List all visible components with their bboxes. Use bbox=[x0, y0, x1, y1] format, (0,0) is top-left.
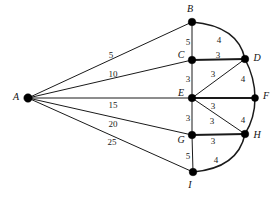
weighted-graph-diagram: A B C D E F G H I 5 10 15 20 25 5 4 3 3 … bbox=[0, 0, 278, 198]
graph-canvas bbox=[0, 0, 278, 198]
edge-g-h bbox=[192, 134, 245, 135]
edge-weight-f-h: 4 bbox=[241, 116, 246, 125]
edge-weight-e-g: 3 bbox=[186, 114, 191, 123]
edge-weight-c-d: 3 bbox=[216, 51, 221, 60]
edge-arc-d-f bbox=[245, 59, 255, 98]
node-d bbox=[241, 55, 249, 63]
edge-weight-b-c: 5 bbox=[186, 38, 191, 47]
node-label-a: A bbox=[13, 92, 19, 102]
edge-weight-g-i: 5 bbox=[186, 152, 191, 161]
edge-weight-e-f: 3 bbox=[211, 102, 216, 111]
node-label-f: F bbox=[263, 91, 269, 101]
node-c bbox=[188, 56, 196, 64]
edge-a-b bbox=[28, 22, 192, 98]
node-i bbox=[189, 168, 197, 176]
edge-weight-d-f: 4 bbox=[241, 75, 246, 84]
node-label-g: G bbox=[177, 135, 184, 145]
edge-weight-b-d: 4 bbox=[217, 36, 222, 45]
edge-a-c bbox=[28, 60, 192, 98]
edge-weight-a-b: 5 bbox=[109, 51, 114, 60]
node-b bbox=[188, 18, 196, 26]
node-h bbox=[241, 130, 249, 138]
edge-weight-c-e: 3 bbox=[186, 75, 191, 84]
node-label-e: E bbox=[178, 88, 184, 98]
node-label-d: D bbox=[253, 53, 260, 63]
edge-e-d bbox=[192, 59, 245, 98]
node-g bbox=[188, 131, 196, 139]
node-label-c: C bbox=[178, 50, 185, 60]
node-label-b: B bbox=[187, 4, 193, 14]
edge-weight-i-h: 4 bbox=[214, 156, 219, 165]
edge-weight-g-h: 3 bbox=[211, 137, 216, 146]
edge-weight-a-i: 25 bbox=[108, 138, 117, 147]
edge-weight-a-c: 10 bbox=[109, 70, 118, 79]
edge-weight-e-h: 3 bbox=[210, 117, 215, 126]
node-label-i: I bbox=[188, 180, 191, 190]
edge-g-i bbox=[192, 135, 193, 172]
node-f bbox=[252, 95, 259, 102]
node-e bbox=[188, 94, 196, 102]
edge-weight-a-g: 20 bbox=[109, 120, 118, 129]
edge-arc-i-h bbox=[193, 134, 245, 172]
edge-weight-a-e: 15 bbox=[109, 101, 118, 110]
node-label-h: H bbox=[253, 130, 260, 140]
node-a bbox=[24, 94, 32, 102]
edge-e-h bbox=[192, 98, 245, 134]
edge-weight-e-d: 3 bbox=[211, 70, 216, 79]
